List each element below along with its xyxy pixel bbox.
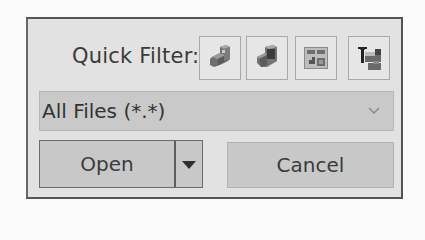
assembly-filter-icon <box>253 43 281 73</box>
quick-filter-assembly-button[interactable] <box>246 36 288 80</box>
quick-filter-top-assembly-button[interactable] <box>348 36 390 80</box>
cancel-button[interactable]: Cancel <box>227 142 394 188</box>
drawing-filter-icon <box>302 44 330 72</box>
part-filter-icon <box>206 43 234 73</box>
file-type-dropdown[interactable]: All Files (*.*) <box>39 91 394 131</box>
open-button[interactable]: Open <box>40 141 174 187</box>
quick-filter-drawing-button[interactable] <box>295 36 337 80</box>
triangle-down-icon <box>182 155 196 174</box>
quick-filter-label: Quick Filter: <box>72 44 199 68</box>
chevron-down-icon <box>367 102 381 121</box>
quick-filter-part-button[interactable] <box>199 36 241 80</box>
open-split-button: Open <box>39 140 203 188</box>
open-options-dropdown-button[interactable] <box>174 141 202 187</box>
top-assembly-filter-icon <box>355 43 383 73</box>
file-type-selected: All Files (*.*) <box>42 99 165 123</box>
